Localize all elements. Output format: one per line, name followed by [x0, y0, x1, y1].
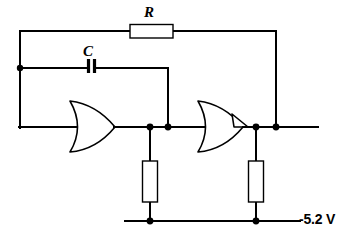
- or-gate-left-symbol: [70, 101, 152, 152]
- resistor-pulldown-left-body: [143, 161, 158, 202]
- resistor-pulldown-left-symbol: [143, 161, 158, 202]
- or-gate-left-body: [70, 101, 115, 152]
- junction-dot-supply-right: [253, 218, 260, 225]
- resistor-pulldown-right-body: [249, 161, 264, 202]
- resistor-r-symbol: [130, 25, 173, 39]
- circuit-schematic-canvas: [0, 0, 344, 240]
- capacitor-c-label: C: [83, 44, 93, 59]
- junction-dot-supply-left: [147, 218, 154, 225]
- junction-dot-feedback-return: [273, 124, 280, 131]
- resistor-r-label: R: [144, 5, 154, 20]
- supply-voltage-label: -5.2 V: [299, 212, 335, 226]
- junction-dot-gate1-out: [147, 124, 154, 131]
- capacitor-c-symbol: [89, 59, 95, 73]
- resistor-r-body: [130, 25, 173, 39]
- junction-dot-cap-return: [165, 124, 172, 131]
- resistor-pulldown-right-symbol: [249, 161, 264, 202]
- junction-dot-gate2-out: [253, 124, 260, 131]
- junction-dot-left-cap: [17, 65, 23, 71]
- or-gate-right-output-marker: [232, 114, 248, 127]
- circuit-diagram: R C -5.2 V: [0, 0, 344, 240]
- or-gate-right-symbol: [168, 101, 258, 152]
